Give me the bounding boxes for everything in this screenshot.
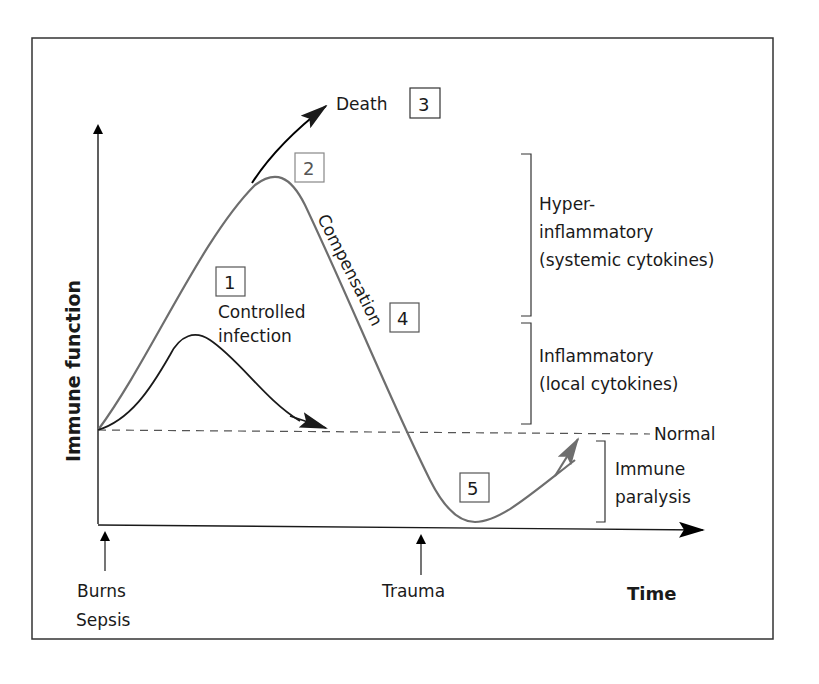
death-label: Death [336,94,387,114]
controlled-infection-label: Controlled infection [218,302,311,346]
marker-2: 2 [295,153,324,182]
bracket-immune-paralysis [596,441,605,522]
immune-response-diagram: Normal Death 3 2 1 4 5 Controlled infect… [0,0,819,684]
bracket-label-hyper-inflammatory: Hyper- inflammatory (systemic cytokines) [539,194,714,270]
marker-4: 4 [390,303,419,332]
bracket-inflammatory [521,323,531,424]
svg-text:3: 3 [418,94,429,115]
recovery-arrow [555,439,578,476]
svg-text:1: 1 [224,272,235,293]
bracket-hyper-inflammatory [521,154,531,316]
svg-text:5: 5 [467,478,478,499]
controlled-infection-arrow [290,416,326,428]
x-axis-label: Time [627,583,676,604]
compensation-label: Compensation [313,211,387,329]
figure-frame [32,38,773,639]
marker-5: 5 [460,473,489,502]
svg-text:2: 2 [303,158,314,179]
bracket-label-immune-paralysis: Immune paralysis [615,459,691,507]
trauma-label: Trauma [381,581,445,601]
y-axis-label: Immune function [62,280,84,462]
marker-1: 1 [216,267,245,296]
bracket-label-inflammatory: Inflammatory (local cytokines) [539,346,678,394]
burns-sepsis-label: Burns Sepsis [76,581,131,630]
x-axis [98,525,703,530]
normal-baseline [98,430,650,434]
normal-label: Normal [654,424,716,444]
marker-3: 3 [410,88,440,118]
svg-text:4: 4 [397,308,408,329]
